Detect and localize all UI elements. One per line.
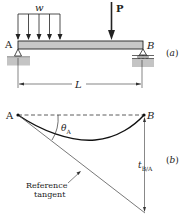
part-b-tag: (b) — [166, 155, 179, 165]
beam — [18, 41, 143, 49]
reference-tangent-label-line2: tangent — [34, 190, 66, 199]
load-p-label: P — [116, 3, 124, 14]
reference-tangent-label-line1: Reference — [26, 181, 68, 190]
support-b-label: B — [146, 40, 154, 51]
load-w-label: w — [35, 2, 44, 13]
theta-a-label: θA — [61, 123, 71, 135]
span-l-label: L — [74, 79, 82, 90]
pin-support-a — [7, 49, 30, 66]
t-ba-label: tB/A — [138, 160, 153, 172]
point-a-label: A — [5, 110, 14, 121]
elastic-curve — [18, 115, 144, 140]
point-a — [16, 113, 19, 116]
theta-a-arc — [52, 115, 58, 140]
point-b — [142, 113, 145, 116]
part-a-tag: ((a)a) — [166, 48, 178, 58]
beam-deflection-diagram: w P A B — [0, 0, 183, 224]
distributed-load — [16, 14, 63, 40]
support-a-label: A — [4, 39, 13, 50]
point-b-label: B — [146, 110, 154, 121]
part-b: A B θA tB/A Reference tangent (b) — [5, 110, 179, 213]
roller-support-b — [132, 49, 154, 67]
point-load-arrow — [108, 2, 115, 40]
part-a: w P A B — [4, 2, 178, 90]
